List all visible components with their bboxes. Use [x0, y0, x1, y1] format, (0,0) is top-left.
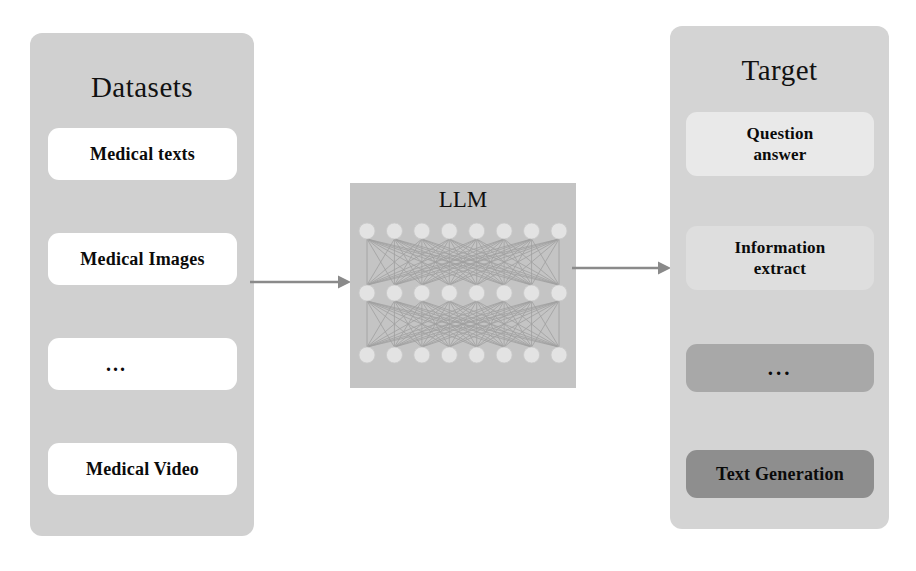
arrow-datasets-to-llm	[250, 272, 352, 292]
dataset-item-medical-video: Medical Video	[48, 443, 237, 495]
dataset-item-medical-images: Medical Images	[48, 233, 237, 285]
target-item-information-extract: Informationextract	[686, 226, 874, 290]
dataset-item-medical-texts: Medical texts	[48, 128, 237, 180]
target-panel: Target Questionanswer Informationextract…	[670, 26, 889, 529]
target-item-text-generation: Text Generation	[686, 450, 874, 498]
neural-network-graphic	[350, 183, 576, 388]
dataset-item-label: Medical Video	[86, 459, 199, 480]
target-item-label: Text Generation	[716, 463, 844, 486]
llm-model-box: LLM	[350, 183, 576, 388]
dataset-item-label: Medical Images	[80, 249, 204, 270]
datasets-panel: Datasets Medical texts Medical Images ..…	[30, 33, 254, 536]
target-item-label: Questionanswer	[747, 123, 814, 166]
target-panel-title: Target	[670, 54, 889, 87]
target-item-question-answer: Questionanswer	[686, 112, 874, 176]
dataset-item-ellipsis: ...	[48, 338, 237, 390]
dataset-item-label: ...	[106, 353, 127, 376]
arrow-llm-to-target	[572, 258, 672, 278]
datasets-panel-title: Datasets	[30, 71, 254, 104]
target-item-label: Informationextract	[735, 237, 826, 280]
diagram-canvas: Datasets Medical texts Medical Images ..…	[0, 0, 916, 571]
dataset-item-label: Medical texts	[90, 144, 195, 165]
llm-title: LLM	[350, 187, 576, 213]
target-item-ellipsis: ...	[686, 344, 874, 392]
target-item-label: ...	[768, 355, 793, 381]
